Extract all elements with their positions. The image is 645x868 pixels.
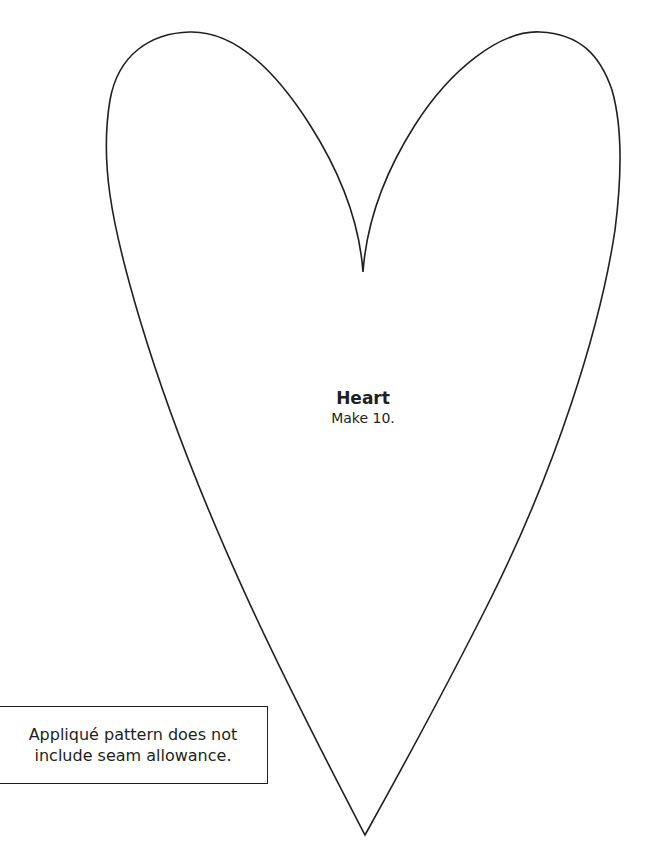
note-line-1: Appliqué pattern does not <box>29 724 238 745</box>
shape-quantity: Make 10. <box>283 409 443 427</box>
seam-allowance-note: Appliqué pattern does not include seam a… <box>0 706 268 784</box>
pattern-page: Heart Make 10. Appliqué pattern does not… <box>0 0 645 868</box>
shape-label: Heart Make 10. <box>283 388 443 427</box>
note-line-2: include seam allowance. <box>29 745 238 766</box>
shape-title: Heart <box>283 388 443 409</box>
note-text: Appliqué pattern does not include seam a… <box>21 724 246 766</box>
